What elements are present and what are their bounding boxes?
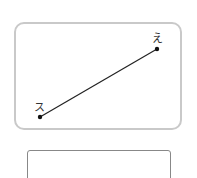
point-end-label: え [152,33,163,44]
point-end-icon [155,47,159,51]
line-segment [40,49,157,117]
point-start-icon [38,115,42,119]
point-start-label: ス [34,102,45,113]
answer-input-box[interactable] [27,150,171,178]
